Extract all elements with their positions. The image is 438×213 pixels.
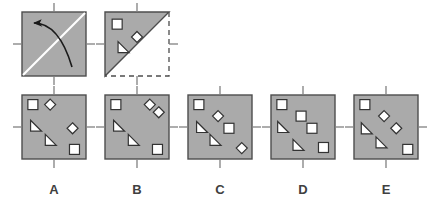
option-label-e: E [382,182,391,197]
shape-square [194,100,204,110]
shape-square [152,144,162,154]
shape-square [112,19,122,29]
option-e[interactable]: E [345,86,427,197]
shape-square [318,142,328,152]
shape-square [403,144,413,154]
figure-canvas: ABCDE [0,0,438,213]
shape-square [307,123,317,133]
option-a[interactable]: A [13,86,95,197]
folded-state-panel [96,3,178,85]
shape-square [111,100,121,110]
option-b[interactable]: B [96,86,178,197]
option-d[interactable]: D [262,86,344,197]
shape-square [224,123,234,133]
option-label-b: B [132,182,141,197]
fold-instruction-panel [13,3,95,85]
shape-square [277,100,287,110]
option-c[interactable]: C [179,86,261,197]
shape-square [28,100,38,110]
shape-square [296,111,306,121]
option-label-d: D [298,182,307,197]
paper-folding-figure: ABCDE [0,0,438,213]
shape-square [69,144,79,154]
option-label-a: A [49,182,59,197]
shape-square [360,100,370,110]
option-label-c: C [215,182,225,197]
